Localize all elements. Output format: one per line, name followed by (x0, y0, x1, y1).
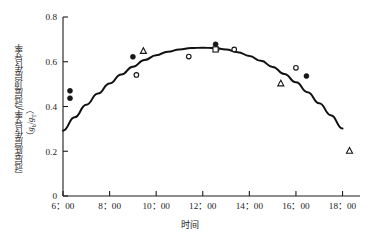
marker-open-circle (134, 73, 139, 78)
y-tick-label: 0.4 (46, 102, 58, 112)
fit-curve (63, 48, 343, 131)
x-tick-labels: 6：008：0010：0012：0014：0016：0018：00 (52, 201, 357, 211)
axes (63, 17, 360, 196)
x-tick-label: 16：00 (282, 201, 310, 211)
chart-figure: 冠层底层传导率/冠层顶层传导率 （gb/gT） 6：008：0010：0012：… (0, 0, 373, 242)
marker-open-triangle (346, 148, 352, 154)
plot-area: 6：008：0010：0012：0014：0016：0018：00 00.20.… (0, 0, 373, 242)
x-tick-label: 14：00 (236, 201, 264, 211)
marker-open-square (213, 47, 218, 52)
y-tick-label: 0 (52, 191, 57, 201)
marker-filled-circle (213, 42, 218, 47)
data-markers (67, 42, 352, 153)
x-tick-label: 10：00 (142, 201, 170, 211)
marker-open-circle (232, 47, 237, 52)
marker-open-circle (294, 65, 299, 70)
marker-open-triangle (140, 48, 146, 54)
y-tick-label: 0.6 (46, 57, 58, 67)
marker-open-circle (186, 54, 191, 59)
x-tick-label: 6：00 (52, 201, 75, 211)
x-axis-title: 时间 (181, 219, 199, 230)
marker-filled-circle (130, 54, 135, 59)
marker-open-triangle (278, 80, 284, 86)
x-axis-ticks (63, 191, 343, 196)
y-tick-labels: 00.20.40.60.8 (46, 12, 58, 201)
marker-filled-circle (67, 96, 72, 101)
y-axis-unit-text: （gb/gT） (23, 106, 37, 139)
y-axis-unit: （gb/gT） (22, 88, 38, 158)
y-tick-label: 0.8 (46, 12, 58, 22)
marker-filled-circle (67, 88, 72, 93)
marker-filled-circle (304, 74, 309, 79)
x-tick-label: 8：00 (98, 201, 121, 211)
y-tick-label: 0.2 (46, 147, 58, 157)
x-tick-label: 18：00 (329, 201, 357, 211)
quadratic-fit-path (63, 48, 343, 131)
x-tick-label: 12：00 (189, 201, 217, 211)
y-axis-ticks (63, 17, 68, 196)
